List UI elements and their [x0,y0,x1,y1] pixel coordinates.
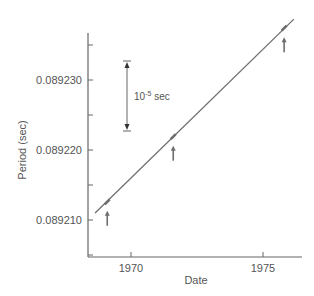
y-axis-label: Period (sec) [16,120,28,179]
x-axis-label: Date [184,274,207,286]
fit-line [95,19,294,213]
data-point-marker [171,134,176,139]
scale-bar-annotation: 10-5 sec [123,61,170,131]
arrow-down-icon [125,124,130,130]
x-tick-label: 1975 [251,262,275,274]
data-series [95,19,294,213]
arrow-up-icon [125,62,130,68]
pulsar-period-chart: 0.0892100.0892200.089230 19701975 10-5 s… [0,0,314,296]
y-tick-label: 0.089220 [36,144,82,156]
y-tick-label: 0.089210 [36,214,82,226]
y-tick-label: 0.089230 [36,74,82,86]
axes [88,33,302,257]
y-axis-ticks: 0.0892100.0892200.089230 [36,45,93,255]
arrowhead-icon [171,146,176,151]
data-point-marker [282,26,287,31]
scale-bar-label: 10-5 sec [134,90,170,102]
arrowhead-icon [282,37,287,42]
x-axis-ticks: 19701975 [119,252,275,274]
x-tick-label: 1970 [119,262,143,274]
data-point-marker [105,199,110,204]
data-markers [105,26,287,226]
arrowhead-icon [105,211,110,216]
